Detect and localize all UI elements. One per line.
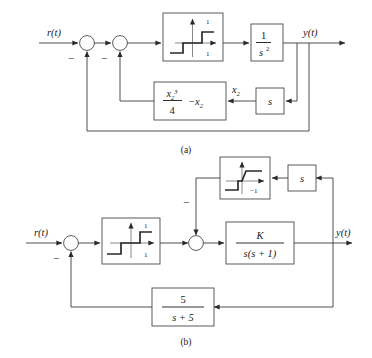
label-x2-a: x2 <box>231 84 241 97</box>
label-r-of-t-b: r(t) <box>34 227 49 239</box>
sum-junction-1-a <box>80 36 95 51</box>
block-inner-nonlinearity-b <box>220 157 270 199</box>
filter-numerator-b: 5 <box>180 294 185 305</box>
derivative-expression-a: s <box>268 96 272 107</box>
plant-denominator-b: s(s + 1) <box>244 248 277 260</box>
integrator-numerator-a: 1 <box>261 30 266 41</box>
sum-junction-2-a <box>113 36 128 51</box>
sum-junction-1-b <box>64 236 79 251</box>
label-y-of-t-a: y(t) <box>302 27 318 39</box>
cubic-denominator-a: 4 <box>169 105 175 116</box>
nl-upper-label-a: 1 <box>206 18 210 26</box>
derivative-expression-b: s <box>300 173 304 184</box>
integrator-denominator-exponent-a: 2 <box>266 45 269 52</box>
plant-numerator-b: K <box>255 230 264 241</box>
diagram-b: −1 s − r(t) − 1 <box>26 157 352 348</box>
sum-junction-2-b <box>189 236 204 251</box>
caption-b: (b) <box>180 337 191 348</box>
sign-minus-sum1-a: − <box>68 52 74 64</box>
block-diagram-figure: r(t) − − 1 1 1 s 2 <box>0 0 372 358</box>
nl-upper-label-b-forward: 1 <box>144 222 148 230</box>
nl-lower-label-a: 1 <box>206 50 210 58</box>
sign-minus-sum2-b: − <box>183 196 189 208</box>
sign-minus-sum2-a: − <box>101 52 107 64</box>
caption-a: (a) <box>181 145 192 156</box>
diagram-a: r(t) − − 1 1 1 s 2 <box>39 13 345 156</box>
label-r-of-t-a: r(t) <box>47 27 62 39</box>
label-y-of-t-b: y(t) <box>335 227 351 239</box>
nl-lower-label-b-inner: −1 <box>250 187 258 195</box>
sign-minus-sum1-b: − <box>53 252 59 264</box>
filter-denominator-b: s + 5 <box>172 312 194 323</box>
figure-root: r(t) − − 1 1 1 s 2 <box>0 0 372 358</box>
integrator-denominator-a: s <box>259 47 263 58</box>
nl-lower-label-b-forward: 1 <box>144 251 148 259</box>
